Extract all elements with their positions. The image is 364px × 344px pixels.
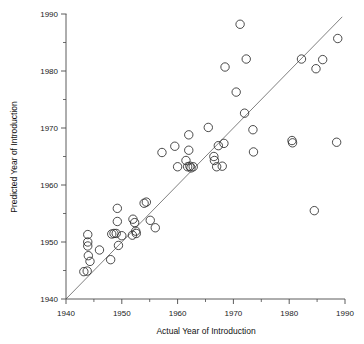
data-point [106, 255, 114, 263]
x-tick-label: 1970 [225, 309, 243, 318]
data-point [249, 148, 257, 156]
x-tick-label: 1980 [280, 309, 298, 318]
data-point [173, 163, 181, 171]
data-point [146, 216, 154, 224]
y-axis-ticks [61, 14, 66, 299]
data-point [214, 141, 222, 149]
y-tick-label: 1940 [40, 295, 58, 304]
data-points [80, 20, 342, 276]
data-point [118, 232, 126, 240]
data-point [142, 198, 150, 206]
data-point [220, 139, 228, 147]
scatter-chart: 194019501960197019801990 194019501960197… [0, 0, 364, 344]
data-point [221, 63, 229, 71]
data-point [158, 148, 166, 156]
data-point [249, 126, 257, 134]
data-point [171, 142, 179, 150]
data-point [185, 146, 193, 154]
y-axis-tick-labels: 194019501960197019801990 [40, 10, 58, 304]
x-tick-label: 1940 [57, 309, 75, 318]
data-point [332, 138, 340, 146]
data-point [232, 88, 240, 96]
y-tick-label: 1980 [40, 67, 58, 76]
data-point [113, 204, 121, 212]
y-tick-label: 1960 [40, 181, 58, 190]
x-axis-ticks [66, 299, 345, 304]
data-point [236, 20, 244, 28]
data-point [312, 65, 320, 73]
plot-area: 194019501960197019801990 194019501960197… [0, 0, 364, 344]
x-axis-tick-labels: 194019501960197019801990 [57, 309, 354, 318]
data-point [297, 55, 305, 63]
data-point [318, 55, 326, 63]
y-tick-label: 1950 [40, 238, 58, 247]
data-point [84, 251, 92, 259]
x-tick-label: 1950 [113, 309, 131, 318]
data-point [242, 55, 250, 63]
x-axis-title: Actual Year of Introduction [156, 326, 256, 336]
data-point [185, 131, 193, 139]
y-tick-label: 1990 [40, 10, 58, 19]
data-point [113, 217, 121, 225]
data-point [151, 224, 159, 232]
data-point [218, 162, 226, 170]
data-point [182, 156, 190, 164]
data-point [204, 123, 212, 131]
y-axis-title: Predicted Year of Introduction [9, 101, 19, 213]
data-point [86, 257, 94, 265]
x-tick-label: 1990 [336, 309, 354, 318]
data-point [310, 206, 318, 214]
y-tick-label: 1970 [40, 124, 58, 133]
x-tick-label: 1960 [169, 309, 187, 318]
data-point [334, 34, 342, 42]
data-point [95, 246, 103, 254]
